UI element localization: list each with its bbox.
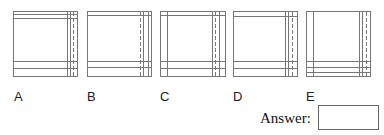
- figure-b: [88, 12, 152, 77]
- figure-d-border: [234, 12, 298, 77]
- figure-e-border: [307, 12, 371, 77]
- figure-a: [14, 12, 78, 77]
- answer-input[interactable]: [318, 105, 379, 130]
- option-label-c: C: [160, 89, 169, 104]
- option-label-e: E: [306, 89, 315, 104]
- figure-e: [307, 12, 371, 77]
- option-label-a: A: [14, 89, 23, 104]
- option-label-d: D: [233, 89, 242, 104]
- option-label-b: B: [87, 89, 96, 104]
- answer-label: Answer:: [260, 110, 311, 127]
- figure-d: [234, 12, 298, 77]
- figure-b-border: [88, 12, 152, 77]
- figure-c: [161, 12, 226, 77]
